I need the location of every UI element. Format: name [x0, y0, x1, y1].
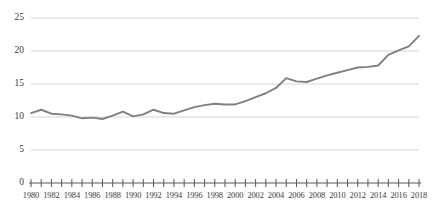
y-axis-tick-label: 20 [2, 46, 24, 56]
chart-canvas [0, 0, 432, 213]
y-axis-tick-label: 15 [2, 79, 24, 89]
data-line [31, 36, 419, 119]
y-axis-tick-label: 10 [2, 112, 24, 122]
gridlines [31, 18, 419, 150]
y-axis-tick-label: 25 [2, 13, 24, 23]
line-chart: 0510152025 19801982198419861988199019921… [0, 0, 432, 213]
x-axis-tick-label: 2018 [404, 191, 432, 200]
y-axis-tick-label: 5 [2, 145, 24, 155]
y-axis-tick-label: 0 [2, 178, 24, 188]
